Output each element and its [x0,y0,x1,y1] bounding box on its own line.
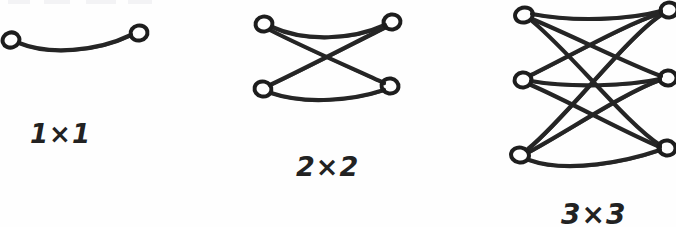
graph-1x1-caption: 1×1 [30,119,91,149]
scanned-page: 1×1 2×2 3×3 [0,0,676,227]
graph-2x2-caption: 2×2 [296,151,359,182]
graph-3x3-caption: 3×3 [561,198,626,227]
graph-3x3-edges [528,11,662,167]
graph-node-left-1 [513,6,534,25]
graph-node-left-1 [1,30,22,50]
graph-node-right-1 [129,24,149,42]
graph-3x3: 3×3 [510,1,676,227]
graph-1x1-edges [19,35,132,51]
graph-node-left-1 [254,15,273,33]
edge-ink-overlay [530,151,661,167]
graph-node-left-2 [253,80,273,98]
graph-2x2: 2×2 [253,13,401,182]
graph-1x1: 1×1 [1,24,149,149]
graph-node-left-3 [510,146,530,164]
graph-node-right-2 [381,77,400,94]
graph-2x2-edges [270,25,387,101]
graph-node-right-1 [659,1,676,19]
bipartite-graphs-figure: 1×1 2×2 3×3 [0,0,676,227]
graph-node-right-1 [383,13,402,30]
graph-node-right-3 [658,139,676,156]
